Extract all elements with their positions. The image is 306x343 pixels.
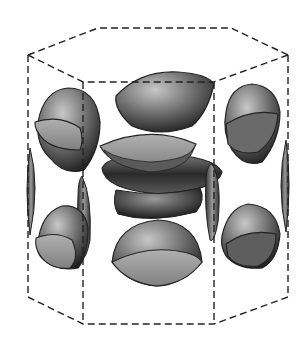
top-center-pocket xyxy=(116,72,214,132)
right-edge-sliver xyxy=(281,140,289,232)
lower-left-cap xyxy=(36,234,76,268)
brillouin-zone-figure xyxy=(0,0,306,343)
fermi-surface-diagram xyxy=(0,0,306,343)
prism-back-edges xyxy=(28,28,288,55)
center-right-vertical-lens xyxy=(206,164,220,241)
